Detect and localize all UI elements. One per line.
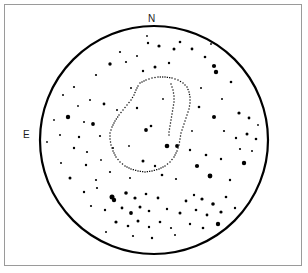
data-point	[189, 149, 191, 151]
contour-dot	[172, 89, 173, 90]
data-point	[147, 42, 149, 44]
contour-dot	[181, 129, 182, 130]
contour-dot	[184, 84, 185, 85]
contour-dot	[169, 125, 170, 126]
data-point	[189, 223, 191, 225]
data-point	[128, 145, 130, 147]
data-point	[175, 178, 177, 180]
data-point	[78, 136, 80, 138]
contour-dot	[173, 95, 174, 96]
contour-dot	[126, 104, 127, 105]
contour-dot	[112, 124, 113, 125]
data-point	[219, 210, 222, 213]
data-point	[198, 106, 201, 109]
contour-dot	[113, 152, 114, 153]
data-point	[191, 130, 193, 132]
data-point	[248, 117, 251, 120]
data-point	[124, 191, 128, 195]
data-point	[175, 144, 179, 148]
data-point	[151, 237, 153, 239]
data-point	[60, 162, 62, 164]
data-point	[86, 151, 88, 153]
contour-dot	[185, 117, 186, 118]
data-point	[100, 159, 102, 161]
data-point	[223, 130, 225, 132]
contour-dot	[113, 122, 114, 123]
data-point	[73, 147, 75, 149]
contour-dot	[157, 76, 158, 77]
contour-dot	[110, 141, 111, 142]
contour-dot	[154, 77, 155, 78]
data-point	[119, 51, 121, 53]
contour-dot	[144, 171, 145, 172]
data-point	[200, 87, 202, 89]
contour-dot	[147, 171, 148, 172]
contour-dot	[133, 169, 134, 170]
data-point	[99, 135, 101, 137]
data-point	[53, 119, 55, 121]
east-direction-label: E	[23, 130, 30, 140]
contour-dot	[109, 132, 110, 133]
contour-dot	[186, 86, 187, 87]
data-point	[112, 147, 114, 149]
contour-dot	[126, 166, 127, 167]
contour-dot	[117, 116, 118, 117]
contour-dot	[158, 168, 159, 169]
contour-dot	[134, 92, 135, 93]
data-point	[89, 99, 91, 101]
contour-dot	[187, 89, 188, 90]
contour-dot	[160, 76, 161, 77]
contour-dot	[182, 126, 183, 127]
data-point	[150, 125, 153, 128]
contour-dot	[109, 135, 110, 136]
data-point	[109, 171, 111, 173]
data-point	[116, 109, 118, 111]
data-point	[193, 194, 195, 196]
data-point	[159, 221, 162, 224]
contour-dot	[180, 135, 181, 136]
contour-dot	[172, 107, 173, 108]
contour-dot	[167, 77, 168, 78]
contour-dot	[189, 94, 190, 95]
contour-dot	[188, 91, 189, 92]
data-point	[246, 133, 249, 136]
contour-dot	[135, 89, 136, 90]
data-point	[46, 141, 48, 143]
contour-dot	[145, 79, 146, 80]
data-point	[165, 144, 170, 149]
data-point	[96, 187, 98, 189]
data-point	[129, 211, 133, 215]
data-point	[85, 164, 87, 166]
data-point	[103, 103, 106, 106]
contour-dot	[170, 122, 171, 123]
data-point	[129, 177, 131, 179]
data-point	[125, 61, 127, 63]
contour-dot	[119, 161, 120, 162]
contour-dot	[179, 138, 180, 139]
north-direction-label: N	[148, 14, 155, 24]
contour-dot	[169, 77, 170, 78]
contour-dot	[170, 119, 171, 120]
contour-dot	[187, 111, 188, 112]
data-point	[137, 220, 140, 223]
data-point	[257, 124, 259, 126]
data-point	[136, 55, 138, 57]
contour-dot	[124, 165, 125, 166]
contour-dot	[124, 107, 125, 108]
data-point	[83, 121, 85, 123]
data-point	[133, 196, 136, 199]
data-point	[136, 107, 138, 109]
contour-dot	[162, 76, 163, 77]
contour-dot	[189, 105, 190, 106]
contour-dot	[171, 86, 172, 87]
contour-dot	[151, 77, 152, 78]
contour-dot	[184, 120, 185, 121]
contour-dot	[109, 138, 110, 139]
data-point	[205, 154, 208, 157]
contour-dot	[110, 129, 111, 130]
data-point	[179, 212, 182, 215]
contour-dot	[171, 159, 172, 160]
contour-dot	[128, 167, 129, 168]
data-point	[91, 122, 95, 126]
contour-dot	[173, 92, 174, 93]
